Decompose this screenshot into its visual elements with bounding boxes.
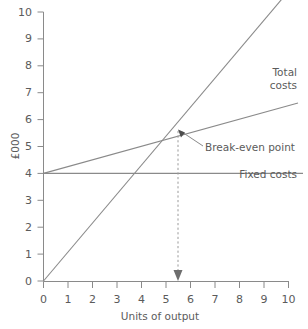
x-tick-label-7: 7 xyxy=(204,294,226,305)
y-axis-ticks xyxy=(38,12,44,281)
y-tick-label-1: 1 xyxy=(10,249,32,260)
break-even-axis-arrowhead xyxy=(174,270,183,281)
x-tick-label-5: 5 xyxy=(155,294,177,305)
chart-plot-area xyxy=(0,0,308,329)
x-tick-label-8: 8 xyxy=(229,294,251,305)
y-tick-label-3: 3 xyxy=(10,195,32,206)
y-tick-label-4: 4 xyxy=(10,168,32,179)
y-tick-label-2: 2 xyxy=(10,222,32,233)
x-tick-label-10: 10 xyxy=(278,294,300,305)
y-tick-label-9: 9 xyxy=(10,33,32,44)
x-tick-label-9: 9 xyxy=(253,294,275,305)
total-costs-label-line2: costs xyxy=(270,79,297,92)
x-axis-ticks xyxy=(44,282,289,289)
x-tick-label-3: 3 xyxy=(106,294,128,305)
break-even-leader-line xyxy=(182,132,203,146)
x-tick-label-0: 0 xyxy=(33,294,55,305)
y-tick-label-10: 10 xyxy=(10,7,32,18)
y-tick-label-0: 0 xyxy=(10,276,32,287)
break-even-point-label: Break-even point xyxy=(205,141,295,154)
x-tick-label-6: 6 xyxy=(180,294,202,305)
fixed-costs-label: Fixed costs xyxy=(239,168,297,181)
y-axis-title: £000 xyxy=(9,124,21,168)
break-even-chart: 10 9 8 7 6 5 4 3 2 1 0 0 1 2 3 4 5 6 7 8… xyxy=(0,0,308,329)
x-tick-label-2: 2 xyxy=(82,294,104,305)
y-tick-label-7: 7 xyxy=(10,87,32,98)
total-costs-line xyxy=(44,103,299,173)
x-tick-label-1: 1 xyxy=(57,294,79,305)
x-axis-title: Units of output xyxy=(113,310,207,322)
total-costs-label-line1: Total xyxy=(270,66,297,79)
y-tick-label-8: 8 xyxy=(10,60,32,71)
total-costs-label: Total costs xyxy=(270,66,297,92)
x-tick-label-4: 4 xyxy=(131,294,153,305)
